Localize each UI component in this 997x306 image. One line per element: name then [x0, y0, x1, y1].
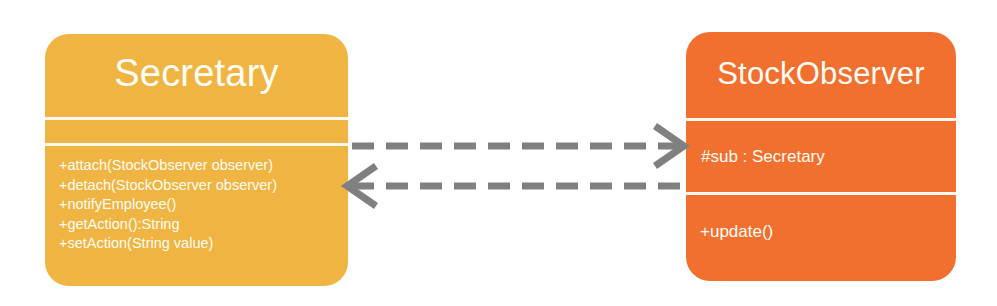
class-box-stockobserver[interactable]: StockObserver #sub : Secretary +update() — [686, 32, 956, 281]
methods-compartment-stockobserver: +update() — [686, 192, 956, 242]
dependency-arrow-right — [352, 126, 684, 166]
method-item: +setAction(String value) — [59, 234, 348, 254]
attributes-compartment-stockobserver: #sub : Secretary — [686, 118, 956, 192]
method-item: +update() — [700, 222, 956, 242]
method-item: +detach(StockObserver observer) — [59, 176, 348, 196]
method-item: +attach(StockObserver observer) — [59, 156, 348, 176]
dependency-arrow-left — [347, 166, 690, 206]
attributes-compartment-secretary — [45, 117, 348, 143]
attribute-item: #sub : Secretary — [701, 147, 956, 167]
class-name-stockobserver: StockObserver — [686, 32, 956, 118]
methods-compartment-secretary: +attach(StockObserver observer) +detach(… — [45, 143, 348, 254]
class-name-secretary: Secretary — [45, 34, 348, 117]
uml-class-diagram: Secretary +attach(StockObserver observer… — [0, 0, 997, 306]
method-item: +notifyEmployee() — [59, 195, 348, 215]
arrowhead-right-icon — [655, 126, 684, 166]
arrowhead-left-icon — [347, 166, 376, 206]
class-box-secretary[interactable]: Secretary +attach(StockObserver observer… — [45, 34, 348, 286]
method-item: +getAction():String — [59, 215, 348, 235]
